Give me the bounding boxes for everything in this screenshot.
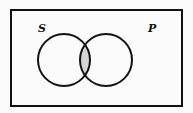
venn-canvas: S P — [0, 0, 193, 113]
set-s-label: S — [38, 22, 46, 35]
universe-rectangle — [11, 10, 182, 106]
venn-diagram: S P — [0, 0, 193, 113]
set-p-label: P — [147, 22, 157, 35]
